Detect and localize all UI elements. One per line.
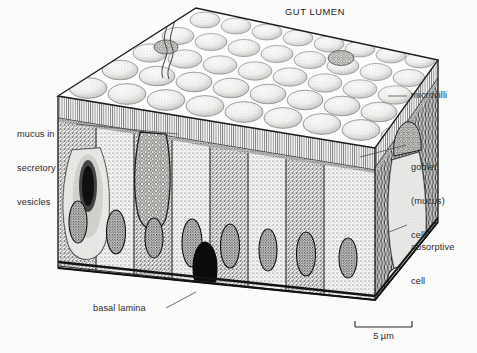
leader-basal-lamina <box>166 292 196 308</box>
label-line: cell <box>411 276 454 287</box>
label-absorptive-cell: absorptive cell <box>411 219 454 310</box>
figure-container: GUT LUMEN mucus in secretory vesicles mi… <box>0 0 477 353</box>
label-line: mucus in <box>17 129 56 140</box>
label-line: vesicles <box>17 197 56 208</box>
label-line: goblet <box>411 162 445 173</box>
label-microvilli: microvilli <box>411 90 447 101</box>
prominent-nucleus <box>193 242 217 294</box>
label-basal-lamina: basal lamina <box>93 303 146 314</box>
label-mucus-in-secretory-vesicles: mucus in secretory vesicles <box>17 106 56 231</box>
page-title: GUT LUMEN <box>285 6 345 17</box>
scale-bar-label: 5 µm <box>355 331 412 341</box>
epithelium-illustration <box>0 0 477 353</box>
goblet-cell-front-a <box>135 132 170 230</box>
goblet-cell-front-b <box>63 148 109 259</box>
label-line: secretory <box>17 163 56 174</box>
scale-bar <box>355 321 412 327</box>
label-line: (mucus) <box>411 196 445 207</box>
label-line: absorptive <box>411 242 454 253</box>
